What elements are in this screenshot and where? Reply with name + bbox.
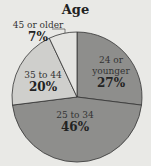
label-25-to-34: 25 to 34 46% [50,110,100,134]
label-24-or-younger: 24 or younger 27% [87,55,135,90]
label-45-or-older: 45 or older 7% [10,20,66,44]
label-35-to-44: 35 to 44 20% [20,70,66,94]
